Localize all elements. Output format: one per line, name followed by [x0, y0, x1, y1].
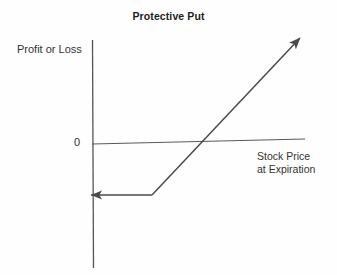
y-axis-line	[93, 40, 94, 268]
x-axis-label: Stock Priceat Expiration	[257, 150, 315, 176]
protective-put-payoff-figure: Protective Put Profit or Loss 0 Stock Pr…	[0, 0, 337, 275]
payoff-diagram-canvas	[0, 0, 337, 275]
x-axis-label-line-2: at Expiration	[257, 163, 315, 176]
x-axis-label-line-1: Stock Price	[257, 150, 310, 162]
x-axis-line	[92, 139, 305, 144]
origin-label: 0	[74, 136, 80, 149]
y-axis-label: Profit or Loss	[17, 43, 82, 56]
